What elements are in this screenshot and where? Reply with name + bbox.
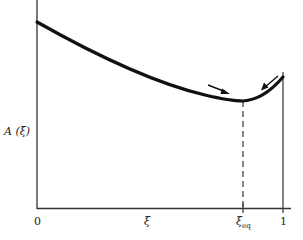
free-energy-diagram [0,0,303,240]
x-tick-eq-subscript: eq [242,222,251,230]
x-tick-label-eq: ξeq [236,216,251,230]
x-axis-label: ξ [144,216,150,227]
arrow-left-downhill-icon [208,85,230,94]
free-energy-curve [37,22,283,101]
x-tick-label-one: 1 [280,216,287,227]
x-tick-label-zero: 0 [34,216,41,227]
y-axis-label: A (ξ) [4,126,30,137]
